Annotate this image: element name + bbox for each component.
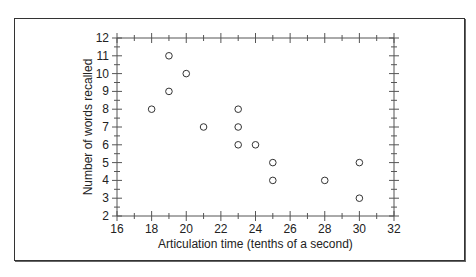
y-tick-label: 6 (102, 138, 109, 152)
y-tick-label: 4 (102, 173, 109, 187)
y-tick-label: 10 (96, 67, 110, 81)
data-point (270, 177, 277, 184)
scatter-chart: 16182022242628303223456789101112Articula… (0, 0, 476, 277)
data-point (200, 124, 207, 131)
data-point (356, 195, 363, 202)
y-tick-label: 7 (102, 120, 109, 134)
data-point (252, 142, 259, 149)
data-point (183, 70, 190, 77)
data-point (235, 106, 242, 113)
x-tick-label: 30 (353, 222, 367, 236)
y-axis-label: Number of words recalled (81, 59, 95, 196)
x-tick-label: 24 (249, 222, 263, 236)
data-point (166, 88, 173, 95)
data-point (148, 106, 155, 113)
x-tick-label: 28 (318, 222, 332, 236)
y-tick-label: 12 (96, 31, 110, 45)
data-point (235, 124, 242, 131)
data-point (270, 159, 277, 166)
x-tick-label: 26 (283, 222, 297, 236)
y-tick-label: 5 (102, 156, 109, 170)
data-point (235, 142, 242, 149)
x-tick-label: 20 (180, 222, 194, 236)
y-tick-label: 9 (102, 84, 109, 98)
data-point (166, 53, 173, 60)
x-tick-label: 18 (145, 222, 159, 236)
y-tick-label: 3 (102, 191, 109, 205)
data-point (321, 177, 328, 184)
y-tick-label: 11 (97, 49, 110, 63)
x-axis-label: Articulation time (tenths of a second) (158, 237, 353, 251)
data-point (356, 159, 363, 166)
x-tick-label: 16 (110, 222, 124, 236)
x-tick-label: 32 (387, 222, 401, 236)
y-tick-label: 8 (102, 102, 109, 116)
y-tick-label: 2 (102, 209, 109, 223)
x-tick-label: 22 (214, 222, 228, 236)
